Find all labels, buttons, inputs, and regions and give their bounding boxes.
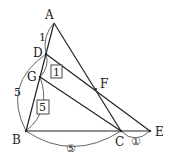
label-F: F — [100, 77, 108, 91]
segment-AC — [54, 23, 121, 131]
ratio-CE-circled: ① — [131, 135, 141, 148]
label-E: E — [155, 125, 164, 139]
ratio-BC-circled: ⑤ — [66, 142, 76, 155]
point-E — [149, 130, 151, 132]
arc-DB — [18, 54, 46, 131]
label-A: A — [44, 8, 54, 22]
ratio-box-GB-text: 5 — [39, 101, 46, 114]
ratio-AD: 1 — [39, 31, 46, 44]
segment-GC — [40, 77, 121, 131]
label-D: D — [33, 46, 43, 60]
label-G: G — [27, 70, 37, 84]
point-G — [39, 76, 41, 78]
point-B — [25, 130, 27, 132]
point-C — [120, 130, 122, 132]
point-D — [45, 53, 47, 55]
label-C: C — [115, 135, 124, 149]
point-F — [95, 88, 97, 90]
geometry-diagram: A D G B C E F 1 5 1 5 ⑤ ① — [0, 0, 173, 161]
label-B: B — [12, 133, 21, 147]
ratio-DB: 5 — [14, 86, 21, 99]
ratio-box-DG-text: 1 — [53, 66, 60, 79]
